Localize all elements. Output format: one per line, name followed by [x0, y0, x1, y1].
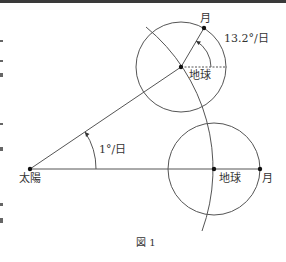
- angle-arc-earth: [85, 132, 96, 169]
- earth-orbit-arc: [146, 27, 213, 231]
- moon-rate-label: 13.2°/日: [224, 33, 269, 44]
- angle-arc-moon: [196, 41, 211, 67]
- moon-point-bottom: [258, 167, 262, 171]
- sun-label: 太陽: [19, 173, 41, 184]
- earth-label-bottom: 地球: [219, 173, 241, 184]
- earth-moon-line-top: [181, 28, 204, 67]
- sun-point: [28, 167, 32, 171]
- moon-label-bottom: 月: [262, 173, 273, 184]
- moon-label-top: 月: [200, 13, 211, 24]
- moon-point-top: [202, 26, 206, 30]
- earth-label-top: 地球: [189, 70, 211, 81]
- earth-point-top: [179, 65, 183, 69]
- earth-rate-label: 1°/日: [99, 144, 126, 155]
- figure-caption: 図 1: [136, 238, 156, 248]
- earth-point-bottom: [212, 167, 216, 171]
